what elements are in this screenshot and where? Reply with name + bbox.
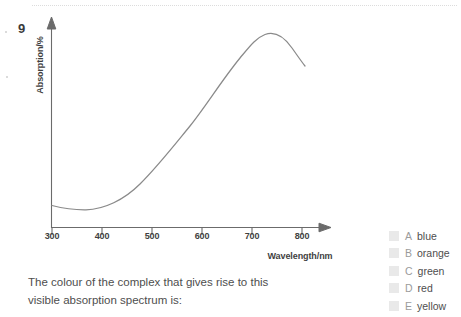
question-stem-line-1: The colour of the complex that gives ris… — [28, 273, 318, 291]
answer-option-label: red — [418, 282, 433, 294]
checkbox-icon[interactable] — [389, 301, 399, 311]
y-axis — [47, 17, 56, 228]
question-stem-line-2: visible absorption spectrum is: — [28, 291, 318, 309]
answer-option-label: orange — [417, 247, 450, 259]
checkbox-icon[interactable] — [389, 248, 399, 258]
x-axis-title: Wavelength/nm — [232, 251, 368, 261]
checkbox-icon[interactable] — [389, 266, 399, 276]
x-tick-label-600: 600 — [184, 231, 220, 241]
absorption-spectrum-chart: Absorption/% Wavelength/nm 300 400 500 6… — [0, 0, 360, 270]
answer-option-label: blue — [417, 230, 437, 242]
y-axis-title: Absorption/% — [35, 17, 45, 113]
answer-option-label: yellow — [417, 300, 446, 312]
answer-option-d[interactable]: D red — [389, 280, 461, 298]
answer-option-letter: E — [405, 300, 412, 312]
checkbox-icon[interactable] — [389, 231, 399, 241]
answer-option-letter: C — [405, 265, 413, 277]
answer-option-e[interactable]: E yellow — [389, 297, 461, 315]
x-tick-label-400: 400 — [84, 231, 120, 241]
spectrum-curve — [52, 33, 305, 209]
x-tick-label-300: 300 — [34, 231, 70, 241]
x-tick-label-500: 500 — [134, 231, 170, 241]
checkbox-icon[interactable] — [389, 283, 399, 293]
answer-options: A blue B orange C green D red E yellow — [389, 227, 461, 315]
x-tick-label-700: 700 — [234, 231, 270, 241]
x-tick-label-800: 800 — [284, 231, 320, 241]
answer-option-letter: B — [405, 247, 412, 259]
chart-svg — [0, 0, 360, 270]
answer-option-label: green — [418, 265, 445, 277]
answer-option-letter: A — [405, 230, 412, 242]
answer-option-a[interactable]: A blue — [389, 227, 461, 245]
answer-option-c[interactable]: C green — [389, 262, 461, 280]
answer-option-letter: D — [405, 282, 413, 294]
question-stem: The colour of the complex that gives ris… — [28, 273, 318, 309]
answer-option-b[interactable]: B orange — [389, 245, 461, 263]
